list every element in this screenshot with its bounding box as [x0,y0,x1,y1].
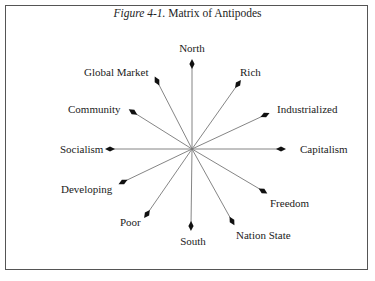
diamond-marker-icon [142,208,152,219]
spoke-label: Nation State [236,229,291,241]
spoke-label: Capitalism [300,143,348,155]
spoke-line [191,149,192,226]
diamond-marker-icon [259,111,270,120]
diamond-marker-icon [227,215,236,226]
diamond-marker-icon [276,146,286,151]
diamond-marker-icon [117,177,128,186]
spoke-label: Socialism [60,143,103,155]
spoke-label: Freedom [270,197,309,209]
spoke-label: Industrialized [277,103,337,115]
spoke-label: North [179,42,205,54]
spoke-line [147,149,192,214]
diamond-marker-icon [105,146,115,151]
spoke-line [192,115,265,149]
spoke-label: Global Market [84,66,148,78]
spoke-line [192,149,232,221]
spoke-line [192,149,263,191]
spoke-line [157,81,192,149]
spoke-label: Rich [240,66,261,78]
spoke-label: Community [68,103,121,115]
diamond-marker-icon [127,107,138,117]
spoke-label: Developing [61,183,112,195]
spoke-line [192,84,238,149]
diamond-marker-icon [188,221,193,231]
diamond-marker-icon [152,75,161,86]
diamond-marker-icon [189,59,194,69]
diamond-marker-icon [233,78,243,89]
spoke-line [133,112,192,149]
spoke-line [123,149,192,182]
diamond-marker-icon [257,186,268,196]
spoke-label: Poor [120,216,141,228]
spoke-label: South [180,235,206,247]
